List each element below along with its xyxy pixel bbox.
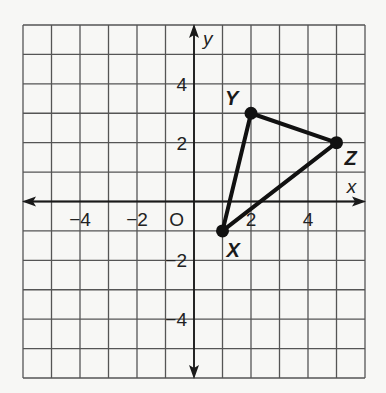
x-tick-label: −2 [126, 209, 148, 230]
y-tick-label: 4 [176, 74, 187, 95]
coordinate-plane: yx −4−22442−2−4O XYZ [0, 0, 386, 393]
y-tick-label: −4 [165, 309, 187, 330]
vertex-label-y: Y [225, 87, 240, 109]
y-tick-label: 2 [176, 133, 187, 154]
vertex-label-z: Z [344, 147, 358, 169]
vertex-point-y [245, 107, 258, 120]
origin-label: O [169, 209, 184, 230]
vertex-point-z [330, 136, 343, 149]
vertex-label-x: X [226, 239, 242, 261]
axes: yx [22, 24, 366, 379]
x-axis-label: x [346, 176, 358, 197]
y-axis-label: y [201, 28, 214, 49]
vertex-point-x [216, 224, 229, 237]
y-tick-label: −2 [165, 250, 187, 271]
x-tick-label: −4 [69, 209, 91, 230]
x-tick-label: 4 [303, 209, 314, 230]
